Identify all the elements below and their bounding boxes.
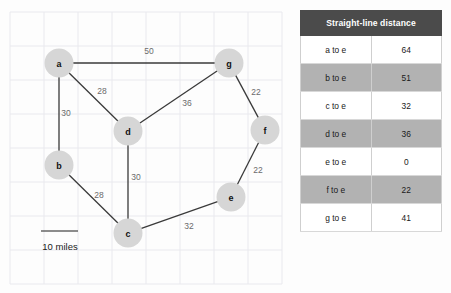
table-row: c to e32 (301, 92, 442, 120)
scale-bar-label: 10 miles (42, 241, 78, 252)
edge-weight-g-f: 22 (251, 87, 261, 97)
table-head: Straight-line distance (301, 11, 442, 36)
edge-weight-a-g: 50 (144, 46, 154, 56)
table-row: f to e22 (301, 176, 442, 204)
table-row: e to e0 (301, 148, 442, 176)
distance-value-cell: 64 (371, 36, 442, 64)
table-row: a to e64 (301, 36, 442, 64)
node-pair-cell: c to e (301, 92, 372, 120)
graph-node-label-c: c (125, 229, 130, 239)
distance-value-cell: 0 (371, 148, 442, 176)
scale-bar: 10 miles (41, 231, 78, 252)
node-pair-cell: g to e (301, 204, 372, 232)
table-body: a to e64b to e51c to e32d to e36e to e0f… (301, 36, 442, 232)
table-row: b to e51 (301, 64, 442, 92)
node-pair-cell: a to e (301, 36, 372, 64)
table-row: d to e36 (301, 120, 442, 148)
edge-weight-c-e: 32 (184, 221, 194, 231)
distance-value-cell: 36 (371, 120, 442, 148)
node-pair-cell: e to e (301, 148, 372, 176)
table-header-row: Straight-line distance (301, 11, 442, 36)
weighted-graph-diagram: abcdefg 502830362222302832 10 miles (0, 0, 293, 293)
edge-weight-d-c: 30 (131, 172, 141, 182)
straight-line-distance-table: Straight-line distance a to e64b to e51c… (300, 10, 442, 232)
graph-node-label-d: d (125, 127, 131, 137)
graph-panel: abcdefg 502830362222302832 10 miles (0, 0, 293, 293)
graph-edge-g-d (139, 71, 218, 124)
edge-weight-a-b: 30 (61, 108, 71, 118)
edge-weight-g-d: 36 (182, 98, 192, 108)
node-pair-cell: b to e (301, 64, 372, 92)
distance-value-cell: 32 (371, 92, 442, 120)
node-pair-cell: d to e (301, 120, 372, 148)
screenshot-root: abcdefg 502830362222302832 10 miles Stra… (0, 0, 451, 293)
table-title: Straight-line distance (301, 11, 442, 36)
edge-weight-b-c: 28 (94, 190, 104, 200)
table-row: g to e41 (301, 204, 442, 232)
edge-weight-a-d: 28 (97, 86, 107, 96)
graph-node-label-g: g (226, 59, 232, 69)
distance-value-cell: 51 (371, 64, 442, 92)
straight-line-distance-panel: Straight-line distance a to e64b to e51c… (300, 10, 442, 232)
edge-weight-f-e: 22 (253, 165, 263, 175)
node-pair-cell: f to e (301, 176, 372, 204)
graph-node-label-e: e (228, 193, 233, 203)
distance-value-cell: 41 (371, 204, 442, 232)
distance-value-cell: 22 (371, 176, 442, 204)
graph-node-label-b: b (56, 161, 62, 171)
